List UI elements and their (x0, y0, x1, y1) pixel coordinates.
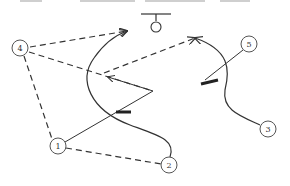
move-line-1-to-corner (65, 91, 153, 142)
svg-text:4: 4 (17, 44, 22, 53)
pass-line-to-b (104, 38, 195, 73)
player-node-4: 4 (12, 40, 28, 56)
cut-line-corner (108, 77, 153, 91)
player-node-1: 1 (50, 138, 66, 154)
move-line-5-to-screen (205, 50, 243, 80)
svg-text:2: 2 (166, 161, 171, 170)
dashed-line-1-to-2 (66, 148, 161, 164)
basket-hoop-icon (141, 14, 171, 32)
svg-text:1: 1 (55, 142, 60, 151)
player-node-3: 3 (260, 121, 276, 137)
svg-text:3: 3 (265, 125, 270, 134)
svg-text:5: 5 (246, 40, 251, 49)
play-diagram: 1 2 3 4 5 (0, 0, 290, 186)
dashed-line-4-to-1 (24, 56, 52, 139)
player-node-2: 2 (161, 157, 177, 173)
screen-mark-2 (201, 80, 218, 84)
cut-path-2-to-a (87, 31, 171, 157)
player-node-5: 5 (241, 36, 257, 52)
